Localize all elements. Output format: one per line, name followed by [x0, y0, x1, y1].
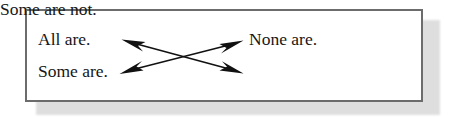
node-label-none-are: None are.	[249, 30, 317, 49]
arrow-shaft-a-o	[133, 43, 233, 70]
arrow-all-are-to-some-are-not	[122, 40, 244, 74]
node-label-some-are: Some are.	[38, 62, 108, 81]
arrowhead-right-o	[220, 61, 244, 73]
arrowhead-right-e	[220, 41, 244, 54]
arrowhead-left-a	[122, 40, 146, 52]
node-label-some-are-not: Some are not.	[0, 0, 97, 19]
node-label-all-are: All are.	[38, 30, 90, 49]
arrow-shaft-i-e	[131, 44, 233, 70]
diagram-figure: All are. Some are. None are. Some are no…	[0, 0, 452, 120]
diagram-content: All are. Some are. None are. Some are no…	[0, 0, 452, 120]
arrowhead-left-i	[120, 61, 144, 74]
arrow-some-are-to-none-are	[120, 41, 244, 75]
